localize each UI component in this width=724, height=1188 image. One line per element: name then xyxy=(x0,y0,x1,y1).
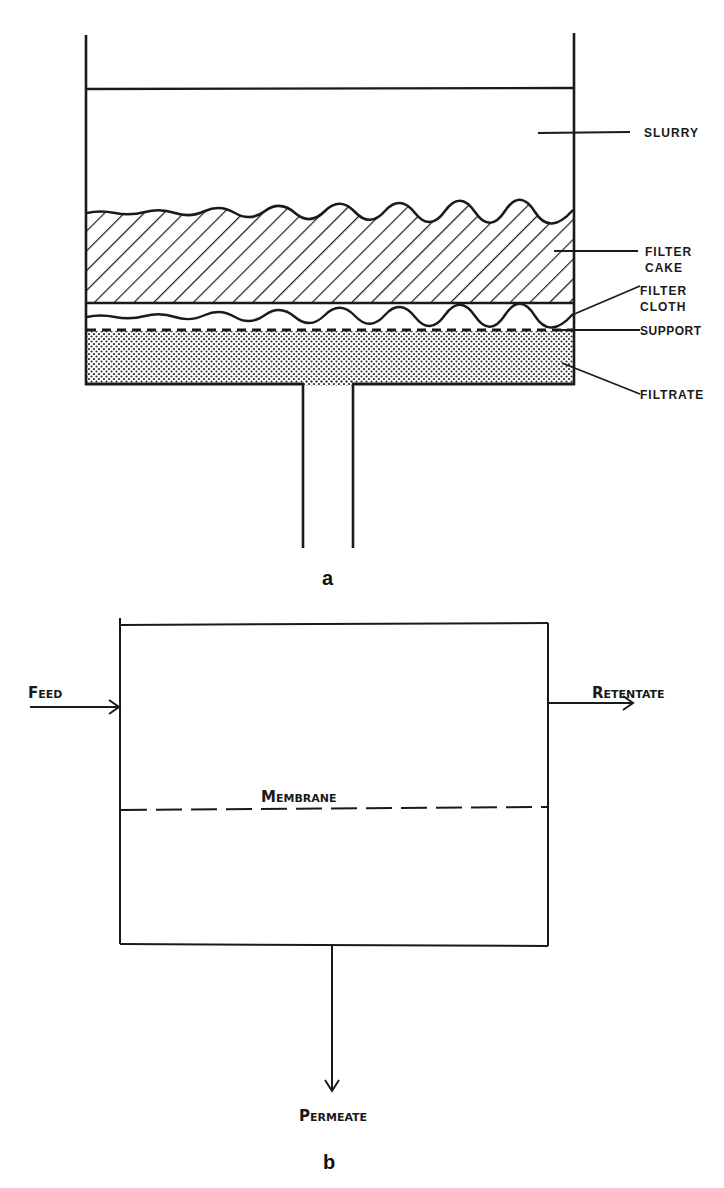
filtration-diagrams: SLURRY FILTER CAKE FILTER CLOTH SUPPORT … xyxy=(0,0,724,1188)
membrane-diagram: FEED RETENTATE MEMBRANE PERMEATE b xyxy=(28,618,665,1173)
label-filter-cloth-line2: CLOTH xyxy=(640,300,686,314)
membrane-module-box xyxy=(120,618,548,946)
permeate-arrow-icon xyxy=(325,946,339,1091)
filter-cake-layer xyxy=(86,200,574,303)
label-membrane: MEMBRANE xyxy=(261,788,337,806)
label-retentate: RETENTATE xyxy=(592,684,665,702)
outlet-pipe xyxy=(303,384,353,548)
label-support: SUPPORT xyxy=(640,324,702,338)
feed-arrow-icon xyxy=(30,700,119,714)
label-slurry: SLURRY xyxy=(644,126,699,140)
caption-a: a xyxy=(322,567,334,589)
filter-cloth-layer xyxy=(87,304,573,328)
slurry-region xyxy=(86,88,574,89)
membrane-line xyxy=(121,807,547,810)
label-filtrate: FILTRATE xyxy=(640,388,704,402)
label-permeate: PERMEATE xyxy=(299,1107,367,1125)
label-filter-cake-line1: FILTER xyxy=(645,245,692,259)
label-filter-cake-line2: CAKE xyxy=(645,261,683,275)
label-filter-cloth-line1: FILTER xyxy=(640,284,687,298)
label-feed: FEED xyxy=(28,684,62,702)
cake-filter-diagram: SLURRY FILTER CAKE FILTER CLOTH SUPPORT … xyxy=(85,33,704,589)
caption-b: b xyxy=(323,1151,335,1173)
filtrate-region xyxy=(87,331,573,386)
